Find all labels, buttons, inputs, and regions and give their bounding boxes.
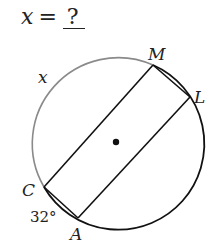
label-l: L bbox=[193, 87, 205, 107]
label-a: A bbox=[68, 224, 82, 244]
label-m: M bbox=[147, 44, 166, 64]
arc-main bbox=[44, 65, 204, 230]
label-arc-x: x bbox=[38, 67, 48, 87]
chord-mc bbox=[44, 65, 153, 187]
label-arc-32: 32° bbox=[30, 208, 57, 226]
circle-diagram: M L C A x 32° bbox=[0, 0, 215, 249]
arc-x bbox=[32, 58, 153, 187]
chord-la bbox=[78, 97, 190, 218]
label-c: C bbox=[22, 180, 35, 200]
chord-ml bbox=[153, 65, 190, 97]
center-point bbox=[113, 139, 119, 145]
